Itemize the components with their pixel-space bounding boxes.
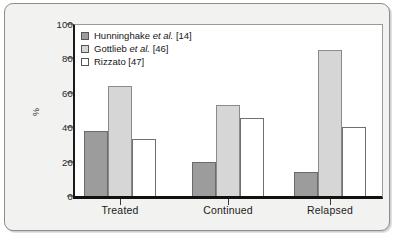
legend-label: Gottlieb et al. [46] — [94, 43, 169, 54]
figure-card: % 020406080100 TreatedContinuedRelapsed … — [4, 3, 390, 231]
y-tick-mark — [67, 24, 73, 25]
legend-label: Rizzato [47] — [94, 56, 144, 67]
bar — [216, 105, 240, 196]
legend-swatch — [81, 45, 89, 53]
x-axis-label: Relapsed — [307, 204, 353, 216]
bar — [342, 127, 366, 196]
y-tick-mark — [67, 161, 73, 162]
x-axis-label: Continued — [203, 204, 253, 216]
y-tick-mark — [67, 127, 73, 128]
legend-item: Rizzato [47] — [81, 56, 192, 67]
bar — [294, 172, 318, 196]
legend-item: Gottlieb et al. [46] — [81, 43, 192, 54]
bar — [108, 86, 132, 196]
bar — [318, 50, 342, 196]
bar — [132, 139, 156, 196]
legend-swatch — [81, 32, 89, 40]
legend-label: Hunninghake et al. [14] — [94, 30, 192, 41]
y-axis-ticks: 020406080100 — [23, 24, 73, 196]
bar-group — [192, 24, 264, 196]
bar — [192, 162, 216, 196]
bar-group — [294, 24, 366, 196]
chart-legend: Hunninghake et al. [14]Gottlieb et al. [… — [81, 30, 192, 67]
legend-item: Hunninghake et al. [14] — [81, 30, 192, 41]
bar — [84, 131, 108, 196]
legend-swatch — [81, 58, 89, 66]
y-tick-mark — [67, 196, 73, 197]
x-axis-label: Treated — [101, 204, 138, 216]
bar — [240, 118, 264, 196]
y-tick-mark — [67, 58, 73, 59]
y-tick-mark — [67, 92, 73, 93]
